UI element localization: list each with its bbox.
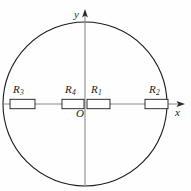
resistor-label-R3-subscript: 3 [20, 88, 24, 97]
resistor-label-R1-subscript: 1 [98, 88, 102, 97]
origin-label: O [76, 108, 84, 119]
y-axis-label: y [74, 9, 79, 20]
resistor-box-R3 [10, 99, 35, 108]
resistor-label-R2-base: R [149, 83, 156, 95]
x-axis-label: x [175, 107, 180, 118]
resistor-label-R4-subscript: 4 [72, 88, 76, 97]
physics-figure: y x O R3 R4 R1 R2 [0, 0, 191, 191]
resistor-label-R3-base: R [13, 83, 20, 95]
resistor-label-R2-subscript: 2 [156, 88, 160, 97]
resistor-label-R1: R1 [91, 84, 101, 95]
resistor-label-R4-base: R [65, 83, 72, 95]
resistor-box-R2 [145, 99, 168, 108]
resistor-label-R4: R4 [65, 84, 75, 95]
resistor-label-R2: R2 [149, 84, 159, 95]
figure-canvas [0, 0, 191, 191]
resistor-box-R1 [87, 99, 110, 108]
resistor-label-R1-base: R [91, 83, 98, 95]
resistor-label-R3: R3 [13, 84, 23, 95]
